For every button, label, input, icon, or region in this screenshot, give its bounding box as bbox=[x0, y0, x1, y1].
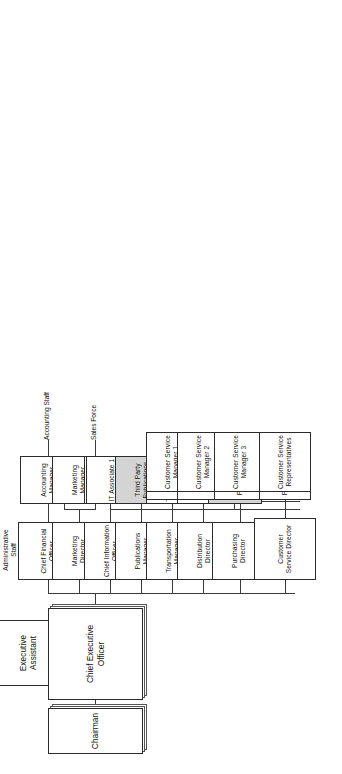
stub-it-associate-1 bbox=[110, 504, 111, 510]
administrative-staff-line2: Staff bbox=[10, 543, 17, 556]
stub-distribution-director bbox=[203, 580, 204, 594]
connector-marketing-director-out bbox=[79, 510, 80, 522]
chairman-box[interactable]: Chairman bbox=[48, 708, 143, 754]
node-chief-executive-officer[interactable]: Chief Executive Officer bbox=[48, 608, 143, 700]
marketing-manager-label-line1: Marketing bbox=[71, 465, 78, 495]
executive-assistant-label: Executive Assistant bbox=[19, 622, 40, 684]
accounting-staff-text: Accounting Staff bbox=[43, 392, 50, 440]
cs-manager-1-label-line1: Customer Service bbox=[164, 435, 171, 489]
sales-force-text: Sales Force bbox=[90, 405, 97, 440]
stub-marketing-manager bbox=[64, 504, 65, 510]
stub-sales-force-manager bbox=[95, 504, 96, 510]
bus-purchasing bbox=[172, 509, 300, 510]
distribution-director-label-line1: Distribution bbox=[196, 534, 203, 568]
org-chart-rotation-stage: Chairman Chief Executive Officer Executi… bbox=[0, 0, 342, 774]
cs-manager-3-label-line2: Manager 3 bbox=[240, 446, 247, 478]
node-customer-service-director[interactable]: Customer Service Director bbox=[254, 518, 316, 580]
connector-transportation-manager-out bbox=[172, 510, 173, 522]
distribution-director-label: Distribution Director bbox=[196, 524, 213, 578]
stub-marketing-director bbox=[79, 580, 80, 594]
customer-service-director-label-line1: Customer bbox=[277, 534, 284, 563]
connector-cfo-accounting-manager bbox=[48, 504, 49, 522]
ceo-box[interactable]: Chief Executive Officer bbox=[48, 608, 143, 700]
cs-manager-3-label-line1: Customer Service bbox=[232, 435, 239, 489]
publications-manager-label-line1: Publications bbox=[134, 533, 141, 570]
stub-cfo bbox=[48, 580, 49, 594]
customer-service-director-label: Customer Service Director bbox=[277, 520, 294, 578]
third-party-publications-label-line1: Third Party bbox=[134, 463, 141, 496]
bus-marketing bbox=[64, 509, 95, 510]
stub-cio bbox=[110, 580, 111, 594]
accounting-manager-label-line1: Accounting bbox=[40, 463, 47, 497]
cfo-label-line1: Chief Financial bbox=[40, 528, 47, 573]
executive-assistant-label-line2: Assistant bbox=[29, 636, 38, 670]
administrative-staff-line1: Administrative bbox=[2, 529, 9, 570]
node-customer-service-representatives[interactable]: Customer Service Representatives bbox=[259, 432, 311, 492]
purchasing-director-label-line2: Director bbox=[239, 539, 246, 563]
cs-manager-2-label-line2: Manager 2 bbox=[203, 446, 210, 478]
executive-assistant-label-line1: Executive bbox=[19, 635, 28, 671]
connector-cio-out bbox=[110, 510, 111, 522]
purchasing-director-label: Purchasing Director bbox=[231, 524, 248, 578]
connector-accounting-manager-staff bbox=[48, 440, 49, 456]
label-sales-force: Sales Force bbox=[90, 390, 98, 440]
stub-customer-service-director bbox=[285, 580, 286, 594]
ceo-label-line1: Chief Executive bbox=[85, 625, 95, 683]
connector-distribution-director-out bbox=[203, 510, 204, 522]
customer-service-director-label-line2: Service Director bbox=[285, 525, 292, 574]
cs-manager-3-label: Customer Service Manager 3 bbox=[232, 434, 249, 490]
connector-sales-force-manager-sales-force bbox=[95, 440, 96, 456]
stub-publications-manager bbox=[141, 580, 142, 594]
cs-representatives-label-line1: Customer Service bbox=[277, 435, 284, 489]
connector-publications-manager-third-party bbox=[141, 504, 142, 522]
ceo-label: Chief Executive Officer bbox=[85, 625, 107, 683]
chairman-label: Chairman bbox=[90, 713, 101, 749]
distribution-director-label-line2: Director bbox=[204, 539, 211, 563]
cio-label-line1: Chief Information bbox=[103, 525, 110, 577]
transportation-manager-label-line1: Transportation bbox=[165, 529, 172, 573]
connector-customer-service-director-out bbox=[285, 502, 286, 518]
stub-transportation-manager bbox=[172, 580, 173, 594]
ceo-label-line2: Officer bbox=[96, 642, 106, 667]
label-administrative-staff: Administrative Staff bbox=[2, 521, 18, 579]
marketing-director-label-line1: Marketing bbox=[71, 536, 78, 566]
label-accounting-staff: Accounting Staff bbox=[43, 382, 51, 440]
cs-manager-2-label: Customer Service Manager 2 bbox=[195, 434, 212, 490]
purchasing-director-label-line1: Purchasing bbox=[231, 534, 238, 568]
cs-representatives-label-line2: Representatives bbox=[285, 437, 292, 486]
cs-representatives-label: Customer Service Representatives bbox=[277, 434, 294, 490]
org-chart-canvas: Chairman Chief Executive Officer Executi… bbox=[0, 0, 342, 774]
connector-purchasing-director-out bbox=[240, 510, 241, 522]
stub-purchasing-director bbox=[240, 580, 241, 594]
cs-manager-2-label-line1: Customer Service bbox=[195, 435, 202, 489]
node-chairman[interactable]: Chairman bbox=[48, 708, 143, 754]
